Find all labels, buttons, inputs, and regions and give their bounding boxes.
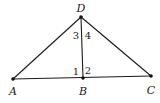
- triangle-diagram: D A B C 3 4 1 2: [0, 0, 160, 103]
- point-d: [79, 15, 83, 19]
- label-b: B: [78, 85, 87, 98]
- segment-ad: [13, 17, 81, 79]
- segment-db: [81, 17, 83, 78]
- angle-label-2: 2: [85, 65, 91, 76]
- angle-label-3: 3: [73, 30, 79, 41]
- label-d: D: [76, 2, 86, 15]
- segment-dc: [81, 17, 151, 76]
- angle-label-1: 1: [73, 66, 79, 77]
- label-a: A: [8, 85, 17, 98]
- point-c: [149, 74, 153, 78]
- label-c: C: [147, 84, 156, 97]
- point-b: [81, 76, 85, 80]
- point-a: [11, 77, 15, 81]
- angle-label-4: 4: [85, 30, 91, 41]
